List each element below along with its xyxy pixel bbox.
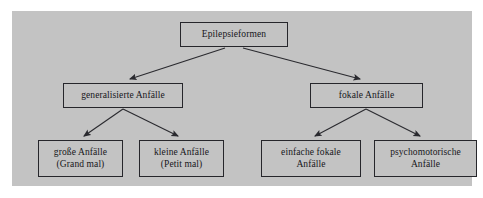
node-fokale-anfaelle[interactable]: fokale Anfälle [310, 83, 423, 108]
edge-root-to-generalisierte [130, 48, 225, 79]
edge-fokale-to-psychomotorische [366, 109, 420, 136]
node-grosse-anfaelle-grand-mal[interactable]: große Anfälle (Grand mal) [38, 140, 123, 177]
node-einfache-fokale-anfaelle[interactable]: einfache fokale Anfälle [261, 140, 361, 177]
node-psychomotorische-anfaelle[interactable]: psychomotorische Anfälle [374, 140, 477, 177]
edge-fokale-to-einfache [315, 109, 366, 136]
diagram-panel: Epilepsieformen generalisierte Anfälle f… [12, 11, 472, 186]
node-generalisierte-anfaelle[interactable]: generalisierte Anfälle [63, 83, 183, 108]
node-epilepsieformen[interactable]: Epilepsieformen [180, 22, 288, 47]
edge-generalisierte-to-petit-mal [123, 109, 178, 136]
edge-root-to-fokale [243, 48, 360, 79]
node-kleine-anfaelle-petit-mal[interactable]: kleine Anfälle (Petit mal) [139, 140, 224, 177]
edge-generalisierte-to-grand-mal [84, 109, 123, 136]
diagram-canvas: Epilepsieformen generalisierte Anfälle f… [0, 0, 483, 198]
